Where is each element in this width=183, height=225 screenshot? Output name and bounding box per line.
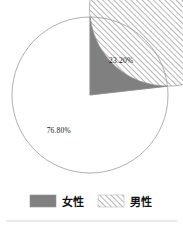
slice-value-label-male: 76.80% [47,126,71,135]
legend-label-male: 男性 [130,195,152,209]
slice-value-label-female: 23.20% [109,56,133,65]
legend-swatch-male [98,195,124,207]
legend-swatch-female [30,195,56,207]
pie-chart-canvas: 23.20% 76.80% 女性 男性 [0,0,183,225]
pie-chart-figure: 23.20% 76.80% 女性 男性 [0,0,183,225]
legend-label-female: 女性 [62,195,84,209]
